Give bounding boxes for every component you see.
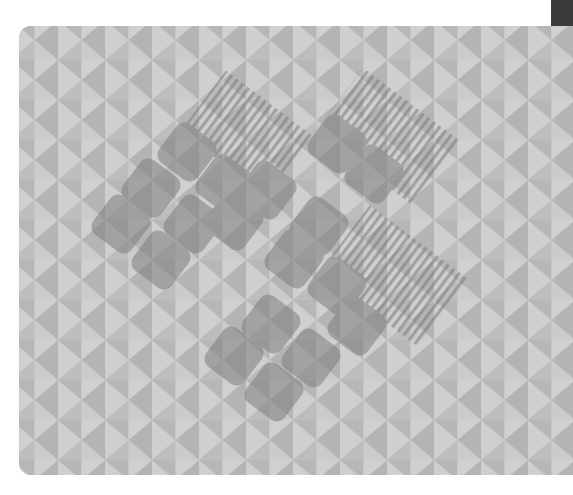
top-caption <box>345 0 455 3</box>
wallpaper-pattern-image <box>19 26 573 475</box>
bottom-caption <box>290 489 400 495</box>
corner-thumbnail[interactable] <box>551 0 573 27</box>
page <box>0 0 573 495</box>
wallpaper-preview-card[interactable] <box>19 26 573 475</box>
